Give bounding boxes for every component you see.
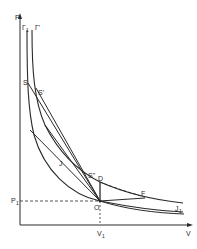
s-prime-label: S'	[38, 89, 44, 96]
f-label: F	[141, 190, 145, 197]
o-label: O	[94, 204, 100, 211]
p1-label-sub: 1	[16, 200, 19, 206]
y-axis-label: P	[15, 14, 20, 21]
d-f-dashed	[100, 182, 145, 197]
s-double-prime-label: S"	[88, 172, 96, 179]
pv-diagram: P V P 1 V 1 Γ 1 Γ' S S' J S" D O F J 1	[0, 0, 197, 249]
s-label: S	[23, 79, 28, 86]
o-f-line	[100, 198, 145, 201]
chord-j	[30, 130, 100, 201]
j1-label-sub: 1	[179, 208, 182, 214]
x-axis-label: V	[186, 230, 191, 237]
j1-label: J	[175, 205, 179, 212]
gamma-prime-label: Γ'	[35, 24, 40, 31]
v1-label-sub: 1	[102, 233, 105, 239]
d-label: D	[98, 175, 103, 182]
point-o	[99, 200, 102, 203]
rayleigh-line-s-prime	[36, 88, 100, 201]
x-axis-arrow-icon	[187, 223, 193, 227]
gamma-prime-curve	[32, 30, 183, 203]
j-label: J	[59, 160, 63, 167]
gamma1-label-sub: 1	[26, 27, 29, 33]
